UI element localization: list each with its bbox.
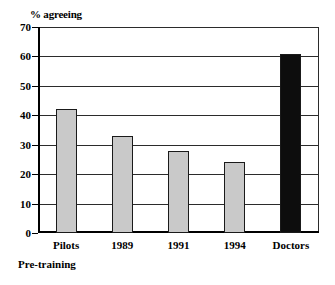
x-axis-tick-label: Pilots [53, 239, 79, 251]
y-axis-tick-label: 30 [20, 139, 31, 151]
plot-right-border [318, 27, 319, 231]
plot-area [38, 27, 319, 233]
gridline [40, 86, 319, 87]
y-axis-tick-label: 0 [26, 227, 32, 239]
y-axis-tick-mark [32, 233, 38, 234]
y-axis-title: % agreeing [30, 8, 82, 20]
x-axis-tick-label: 1994 [224, 239, 246, 251]
x-axis-tick-label: 1991 [168, 239, 190, 251]
bar-chart: % agreeing 010203040506070 Pilots1989199… [0, 0, 335, 285]
gridline [40, 56, 319, 57]
y-axis-tick-label: 40 [20, 109, 31, 121]
x-axis-category-labels: Pilots198919911994Doctors [38, 239, 319, 257]
y-axis-tick-label: 60 [20, 50, 31, 62]
x-axis-tick-label: 1989 [111, 239, 133, 251]
chart-footnote: Pre-training [18, 258, 76, 270]
gridline [40, 115, 319, 116]
y-axis-tick-label: 20 [20, 168, 31, 180]
y-axis-tick-label: 70 [20, 21, 31, 33]
gridline [40, 27, 319, 28]
x-axis-tick-label: Doctors [273, 239, 310, 251]
y-axis-tick-label: 10 [20, 198, 31, 210]
gridline [40, 174, 319, 175]
y-axis-tick-label: 50 [20, 80, 31, 92]
gridline [40, 204, 319, 205]
gridline [40, 145, 319, 146]
y-axis-tick-labels: 010203040506070 [0, 27, 31, 233]
